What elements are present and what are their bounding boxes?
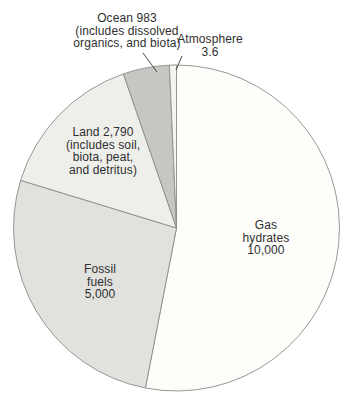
atmosphere-slice-label: Atmosphere 3.6 bbox=[177, 33, 243, 58]
gas-label-line-3: 10,000 bbox=[243, 244, 290, 257]
ocean-label-line-1: Ocean 983 bbox=[73, 12, 180, 25]
atmosphere-label-line-2: 3.6 bbox=[177, 46, 243, 59]
carbon-reservoirs-pie-figure: Ocean 983 (includes dissolved organics, … bbox=[0, 0, 356, 418]
land-label-line-3: biota, peat, bbox=[66, 151, 140, 164]
ocean-slice-label: Ocean 983 (includes dissolved organics, … bbox=[73, 12, 180, 50]
fossil-fuels-slice-label: Fossil fuels 5,000 bbox=[84, 263, 116, 301]
land-label-line-1: Land 2,790 bbox=[66, 126, 140, 139]
land-slice-label: Land 2,790 (includes soil, biota, peat, … bbox=[66, 126, 140, 176]
fossil-label-line-3: 5,000 bbox=[84, 288, 116, 301]
gas-hydrates-slice-label: Gas hydrates 10,000 bbox=[243, 219, 290, 257]
gas-label-line-1: Gas bbox=[243, 219, 290, 232]
atmosphere-label-line-1: Atmosphere bbox=[177, 33, 243, 46]
pie-chart bbox=[0, 0, 356, 418]
fossil-label-line-1: Fossil bbox=[84, 263, 116, 276]
ocean-label-line-3: organics, and biota) bbox=[73, 37, 180, 50]
pie-slices bbox=[13, 65, 339, 391]
land-label-line-4: and detritus) bbox=[66, 164, 140, 177]
